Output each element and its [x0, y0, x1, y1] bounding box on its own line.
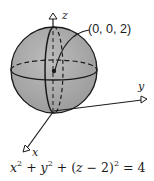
eq-y: y — [41, 160, 48, 175]
z-axis-label: z — [62, 9, 68, 22]
eq-exp: 2 — [17, 159, 22, 168]
y-arrowhead — [141, 96, 147, 103]
x-axis-label: x — [32, 146, 38, 159]
eq-center: 2 — [101, 160, 109, 175]
eq-exp: 2 — [48, 159, 53, 168]
y-axis-label: y — [138, 80, 144, 93]
z-arrowhead — [49, 13, 57, 19]
sphere-equation: x2 + y2 + (z − 2)2 = 4 — [10, 160, 145, 175]
x-axis — [27, 112, 53, 148]
eq-x: x — [10, 160, 17, 175]
eq-z: z — [76, 160, 83, 175]
eq-rhs: 4 — [137, 160, 145, 175]
eq-exp: 2 — [114, 159, 119, 168]
center-point-label: (0, 0, 2) — [88, 22, 131, 36]
